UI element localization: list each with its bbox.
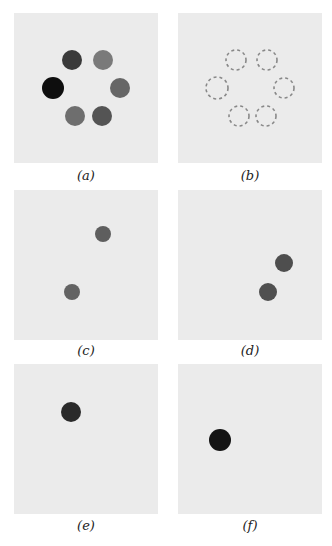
- caption-b: (b): [178, 168, 322, 183]
- dot-a-6: [92, 106, 112, 126]
- dot-b-2: [257, 50, 277, 70]
- dot-b-6: [256, 106, 276, 126]
- panel-b: [178, 13, 322, 163]
- dot-b-1: [226, 50, 246, 70]
- caption-c: (c): [14, 343, 158, 358]
- panel-d: [178, 190, 322, 340]
- dot-b-3: [206, 77, 228, 99]
- panel-d-dots: [178, 190, 322, 340]
- caption-d: (d): [178, 343, 322, 358]
- panel-f-dots: [178, 364, 322, 514]
- dot-f-1: [209, 429, 231, 451]
- panel-b-dots: [178, 13, 322, 163]
- dot-e-1: [61, 402, 81, 422]
- panel-f: [178, 364, 322, 514]
- dot-d-2: [259, 283, 277, 301]
- panel-e-dots: [14, 364, 158, 514]
- dot-a-1: [62, 50, 82, 70]
- dot-a-2: [93, 50, 113, 70]
- dot-a-3: [42, 77, 64, 99]
- panel-e: [14, 364, 158, 514]
- caption-a: (a): [14, 168, 158, 183]
- dot-c-1: [95, 226, 111, 242]
- dot-c-2: [64, 284, 80, 300]
- caption-e: (e): [14, 518, 158, 533]
- dot-b-4: [274, 78, 294, 98]
- panel-c-dots: [14, 190, 158, 340]
- panel-a: [14, 13, 158, 163]
- panel-a-dots: [14, 13, 158, 163]
- dot-b-5: [229, 106, 249, 126]
- dot-a-4: [110, 78, 130, 98]
- caption-f: (f): [178, 518, 322, 533]
- dot-d-1: [275, 254, 293, 272]
- dot-a-5: [65, 106, 85, 126]
- panel-c: [14, 190, 158, 340]
